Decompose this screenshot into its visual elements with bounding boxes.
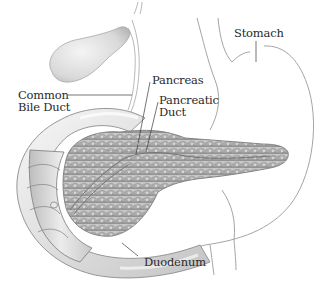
label-duodenum: Duodenum	[144, 256, 206, 268]
leader-duodenum	[122, 243, 138, 256]
label-common-bile-duct-line2: Bile Duct	[18, 101, 70, 113]
duodenal-papilla	[51, 202, 58, 208]
pancreas-anatomy-illustration	[0, 0, 328, 290]
label-pancreatic-duct: Pancreatic Duct	[159, 94, 219, 118]
label-pancreatic-duct-line2: Duct	[159, 106, 219, 118]
label-common-bile-duct: Common Bile Duct	[18, 89, 70, 113]
label-stomach: Stomach	[234, 27, 284, 39]
label-pancreas-text: Pancreas	[152, 74, 203, 86]
gallbladder	[50, 27, 130, 82]
pancreas	[63, 130, 288, 236]
label-pancreas: Pancreas	[152, 74, 203, 86]
label-stomach-text: Stomach	[234, 27, 284, 39]
common-bile-duct	[128, 2, 142, 112]
label-duodenum-text: Duodenum	[144, 256, 206, 268]
